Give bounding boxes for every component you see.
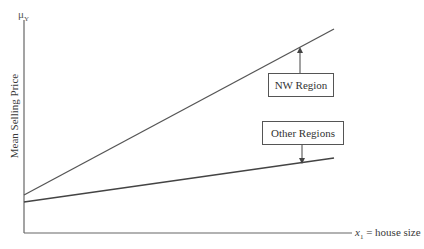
y-axis-symbol: μY	[18, 8, 29, 23]
other-regions-line	[24, 158, 334, 202]
y-axis-label: Mean Selling Price	[8, 66, 20, 166]
x-axis-label: x1 = house size	[355, 226, 421, 241]
nw-region-callout: NW Region	[268, 73, 334, 97]
chart-canvas	[0, 0, 424, 249]
nw-region-line	[24, 29, 334, 195]
other-regions-callout: Other Regions	[262, 121, 344, 145]
